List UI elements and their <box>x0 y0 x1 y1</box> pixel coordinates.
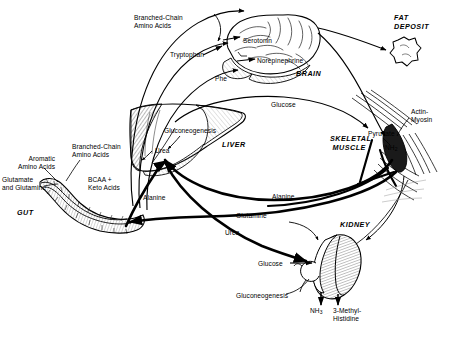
organ-label-fat-deposit: FAT DEPOSIT <box>394 13 429 31</box>
nh2-base: NH <box>385 144 395 151</box>
organ-label-gut: GUT <box>17 209 34 217</box>
nh3-subscript: 3 <box>320 309 323 315</box>
metabolite-label-gluconeogenesis-liver: Gluconeogenesis <box>164 127 216 135</box>
metabolite-label-norepinephrine: Norepinephrine <box>257 57 303 65</box>
metabolite-label-aromatic-amino-acids: Aromatic Amino Acids <box>18 155 55 170</box>
organ-label-brain: BRAIN <box>296 70 321 78</box>
nh2-subscript: 2 <box>395 146 398 152</box>
diagram-artwork <box>0 0 451 337</box>
metabolite-label-alanine-liver: Alanine <box>143 194 166 202</box>
organ-label-liver: LIVER <box>222 141 246 149</box>
metabolite-label-branched-chain-amino-acids-gut: Branched-Chain Amino Acids <box>72 143 121 158</box>
metabolite-label-urea-kidney: Urea <box>225 229 240 237</box>
metabolite-label-phe: Phe <box>215 75 227 83</box>
organ-label-skeletal-muscle: SKELETAL MUSCLE <box>330 134 371 152</box>
metabolic-pathway-diagram: BRAIN FAT DEPOSIT LIVER SKELETAL MUSCLE … <box>0 0 451 337</box>
metabolite-label-gluconeogenesis-kidney: Gluconeogenesis <box>236 292 288 300</box>
metabolite-label-glucose-liver: Glucose <box>271 101 296 109</box>
metabolite-label-glutamine: Glutamine <box>236 212 267 220</box>
metabolite-label-nh3: NH3 <box>310 307 323 316</box>
metabolite-label-branched-chain-amino-acids-brain: Branched-Chain Amino Acids <box>134 14 183 29</box>
metabolite-label-serotonin: Serotonin <box>243 37 272 45</box>
metabolite-label-3-methyl-histidine: 3-Methyl- Histidine <box>333 307 361 322</box>
metabolite-label-glucose-kidney: Glucose <box>258 260 283 268</box>
fat-deposit-illustration <box>390 37 421 66</box>
metabolite-label-actin-myosin: Actin- Myosin <box>411 108 432 123</box>
metabolite-label-glutamate-and-glutamine: Glutamate and Glutamine <box>2 176 46 191</box>
metabolite-label-tryptophan: Tryptophan <box>170 51 204 59</box>
metabolite-label-pyruvate: Pyruvate <box>368 130 395 138</box>
metabolite-label-alanine-muscle: Alanine <box>272 193 295 201</box>
metabolite-label-nh2: NH2 <box>385 144 398 153</box>
organ-label-kidney: KIDNEY <box>340 221 370 229</box>
metabolite-label-bcaa-plus-keto-acids: BCAA + Keto Acids <box>88 176 120 191</box>
nh3-base: NH <box>310 307 320 314</box>
kidney-organ-illustration <box>294 235 361 299</box>
metabolite-label-urea-liver: Urea <box>155 147 170 155</box>
